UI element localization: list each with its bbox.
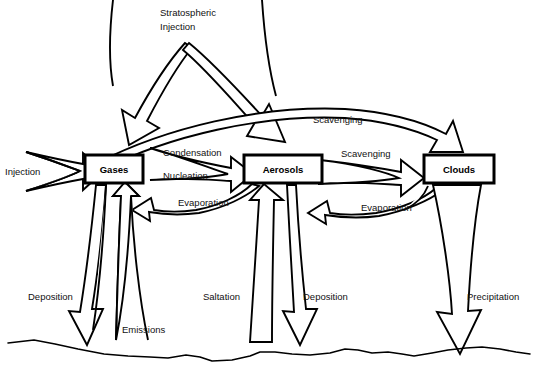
arrow-precipitation [433, 185, 481, 354]
node-aerosols-label: Aerosols [263, 164, 304, 175]
node-clouds[interactable]: Clouds [424, 155, 494, 183]
arrow-upper-right-descent [262, 0, 276, 96]
flow-label-condensation: Condensation [163, 147, 222, 158]
flow-label-stratospheric: Stratospheric [160, 7, 216, 18]
flow-label-scavenging-upper: Scavenging [313, 114, 363, 125]
aerosol-cycle-diagram: Gases Aerosols Clouds Injection Stratosp… [0, 0, 536, 374]
arrow-upper-left-descent [110, 0, 113, 86]
flow-label-stratospheric-injection: Injection [160, 21, 195, 32]
node-gases[interactable]: Gases [85, 155, 143, 183]
arrow-saltation [250, 184, 283, 342]
flow-label-precipitation: Precipitation [467, 291, 519, 302]
node-gases-label: Gases [100, 164, 129, 175]
node-clouds-label: Clouds [443, 164, 475, 175]
node-aerosols[interactable]: Aerosols [244, 155, 322, 183]
flow-label-saltation: Saltation [203, 291, 240, 302]
flow-label-scavenging-lower: Scavenging [341, 148, 391, 159]
flow-label-evaporation-left: Evaporation [178, 197, 229, 208]
arrow-deposition-aerosols [283, 185, 317, 345]
flow-label-nucleation: Nucleation [163, 170, 208, 181]
flow-label-emissions: Emissions [122, 324, 166, 335]
diagram-canvas: Gases Aerosols Clouds Injection Stratosp… [0, 0, 536, 374]
flow-label-injection: Injection [5, 166, 40, 177]
arrow-scavenging-lower [318, 160, 424, 196]
flow-label-evaporation-right: Evaporation [361, 202, 412, 213]
flow-label-deposition-gases: Deposition [28, 291, 73, 302]
flow-label-deposition-aerosols: Deposition [303, 291, 348, 302]
